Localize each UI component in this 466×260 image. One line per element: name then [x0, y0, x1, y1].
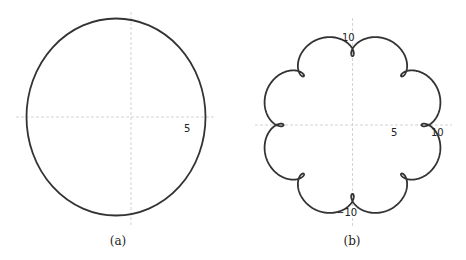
- figure: 5 (a) 5 10 10 −10 (b): [0, 0, 466, 260]
- caption-a: (a): [110, 234, 127, 248]
- tick-label-10-x: 10: [431, 127, 444, 138]
- tick-label-5: 5: [391, 127, 397, 138]
- caption-b: (b): [343, 234, 360, 248]
- tick-label-5: 5: [184, 123, 190, 134]
- tick-label-10-y: 10: [342, 32, 355, 43]
- tick-label-minus10-y: −10: [336, 207, 357, 218]
- panel-a: 5 (a): [16, 12, 215, 248]
- panel-b: 5 10 10 −10 (b): [255, 18, 452, 248]
